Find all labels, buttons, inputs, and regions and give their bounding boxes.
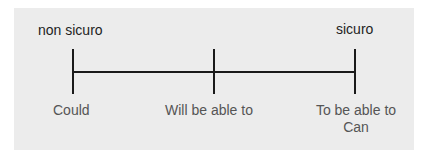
label-non-sicuro: non sicuro <box>38 22 103 38</box>
point-label-can: To be able to Can <box>314 102 398 136</box>
point-label-can-line1: To be able to <box>314 102 398 119</box>
label-sicuro: sicuro <box>336 21 373 37</box>
point-label-will-be-able-to: Will be able to <box>165 102 253 119</box>
tick-could <box>72 49 74 94</box>
tick-will-be-able-to <box>213 49 215 94</box>
point-label-can-line2: Can <box>314 119 398 136</box>
tick-can <box>354 49 356 94</box>
point-label-could: Could <box>53 102 90 119</box>
